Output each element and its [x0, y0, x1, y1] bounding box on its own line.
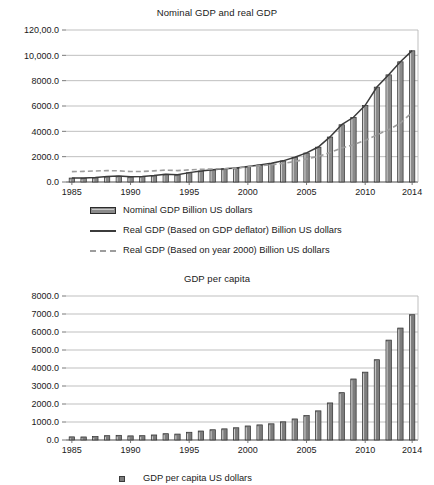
bar: [304, 416, 309, 440]
x-axis-tick-label: 1985: [62, 445, 82, 455]
bar: [104, 177, 109, 182]
x-axis-tick-label: 1995: [179, 187, 199, 197]
bar: [187, 173, 192, 182]
y-axis-tick-label: 6000.0: [31, 327, 59, 337]
bar: [128, 436, 133, 440]
bar: [269, 163, 274, 182]
x-axis-tick-label: 2014: [402, 187, 422, 197]
bar: [116, 435, 121, 440]
x-axis-tick-label: 2005: [297, 187, 317, 197]
solid-line-swatch-icon: [90, 225, 116, 237]
bar: [257, 165, 262, 182]
x-axis-tick-label: 1995: [179, 445, 199, 455]
bar: [374, 360, 379, 440]
bar: [104, 436, 109, 440]
bar: [233, 428, 238, 440]
bar: [292, 419, 297, 440]
bar: [316, 147, 321, 182]
bar: [198, 431, 203, 440]
bar: [175, 434, 180, 440]
y-axis-tick-label: 4000.0: [31, 127, 59, 137]
bar: [280, 422, 285, 440]
bar: [316, 411, 321, 440]
legend-item-gdp-per-capita: GDP per capita US dollars: [110, 472, 350, 485]
bar: [151, 435, 156, 440]
bar: [245, 426, 250, 440]
x-axis-tick-label: 2014: [402, 445, 422, 455]
bar: [398, 328, 403, 440]
legend-label: Real GDP (Based on GDP deflator) Billion…: [123, 224, 342, 237]
bar: [386, 75, 391, 182]
bar: [304, 153, 309, 182]
bar: [222, 429, 227, 440]
bar: [386, 340, 391, 440]
bar: [151, 176, 156, 182]
y-axis-tick-label: 6000.0: [31, 101, 59, 111]
bar: [409, 51, 414, 182]
x-axis-tick-label: 2000: [238, 187, 258, 197]
y-axis-tick-label: 1000.0: [31, 417, 59, 427]
y-axis-tick-label: 5000.0: [31, 345, 59, 355]
legend-label: Nominal GDP Billion US dollars: [123, 204, 253, 217]
bar: [187, 432, 192, 440]
bar: [198, 171, 203, 182]
gdp-per-capita-chart: GDP per capita 8000.07000.06000.05000.04…: [0, 270, 434, 481]
y-axis-tick-label: 0.0: [46, 177, 59, 187]
top-chart-legend: Nominal GDP Billion US dollars Real GDP …: [90, 204, 390, 257]
x-axis-tick-label: 1990: [121, 445, 141, 455]
x-axis-tick-label: 1985: [62, 187, 82, 197]
bar: [222, 169, 227, 182]
bar: [233, 168, 238, 182]
bar: [210, 430, 215, 440]
bar: [257, 425, 262, 440]
dashed-series-line: [72, 112, 412, 171]
top-chart-title: Nominal GDP and real GDP: [0, 0, 434, 18]
x-axis-tick-label: 2010: [355, 187, 375, 197]
y-axis-tick-label: 10,000.0: [24, 51, 59, 61]
legend-item-real-gdp-2000: Real GDP (Based on year 2000) Billion US…: [90, 244, 390, 257]
legend-item-real-gdp-deflator: Real GDP (Based on GDP deflator) Billion…: [90, 224, 390, 237]
bar: [210, 170, 215, 182]
bar: [81, 437, 86, 440]
bar: [163, 434, 168, 440]
y-axis-tick-label: 2000.0: [31, 399, 59, 409]
bar: [351, 117, 356, 182]
bottom-chart-legend: GDP per capita US dollars: [110, 472, 350, 485]
legend-label: GDP per capita US dollars: [143, 472, 252, 485]
square-swatch-icon: [110, 473, 136, 485]
bar: [93, 437, 98, 440]
bar: [81, 178, 86, 182]
bottom-chart-title: GDP per capita: [0, 270, 434, 284]
legend-item-nominal-gdp: Nominal GDP Billion US dollars: [90, 204, 390, 217]
nominal-real-gdp-chart: Nominal GDP and real GDP 120,00.010,000.…: [0, 0, 434, 276]
y-axis-tick-label: 3000.0: [31, 381, 59, 391]
y-axis-tick-label: 7000.0: [31, 309, 59, 319]
y-axis-tick-label: 2000.0: [31, 152, 59, 162]
bar: [327, 137, 332, 182]
x-axis-tick-label: 2000: [238, 445, 258, 455]
y-axis-tick-label: 120,00.0: [24, 25, 59, 35]
bar: [140, 436, 145, 440]
legend-label: Real GDP (Based on year 2000) Billion US…: [123, 244, 330, 257]
bottom-plot-area: 8000.07000.06000.05000.04000.03000.02000…: [0, 290, 434, 462]
bar: [163, 174, 168, 182]
bar: [339, 125, 344, 182]
bottom-chart-svg: 8000.07000.06000.05000.04000.03000.02000…: [0, 290, 434, 462]
bar: [374, 87, 379, 182]
bar: [128, 177, 133, 182]
bar: [175, 175, 180, 182]
bar-swatch-icon: [90, 205, 116, 217]
bar: [116, 176, 121, 182]
bar: [245, 167, 250, 182]
dashed-line-swatch-icon: [90, 245, 116, 257]
bar: [363, 105, 368, 182]
bar: [69, 437, 74, 440]
y-axis-tick-label: 8000.0: [31, 291, 59, 301]
y-axis-tick-label: 0.0: [46, 435, 59, 445]
x-axis-tick-label: 2010: [355, 445, 375, 455]
bar: [409, 315, 414, 440]
bar: [93, 178, 98, 182]
y-axis-tick-label: 4000.0: [31, 363, 59, 373]
top-chart-svg: 120,00.010,000.08000.06000.04000.02000.0…: [0, 24, 434, 204]
